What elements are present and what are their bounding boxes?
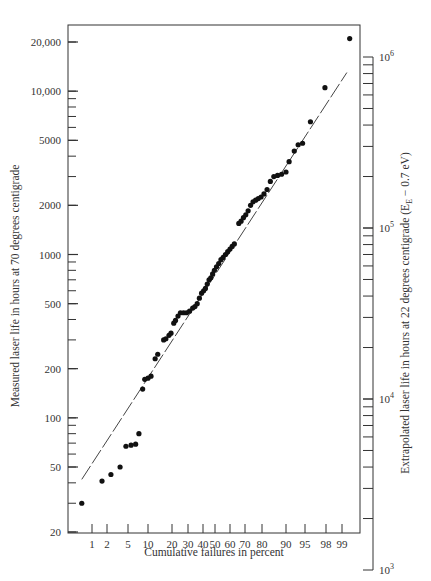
- y-tick-label: 1000: [39, 249, 62, 261]
- fit-line: [82, 73, 347, 480]
- x-tick-label: 2: [104, 538, 110, 550]
- y-tick-label: 500: [45, 298, 62, 310]
- y-tick-label: 100: [45, 412, 62, 424]
- y-axis-title: Measured laser life in hours at 70 degre…: [9, 165, 22, 408]
- x-tick-label: 99: [337, 538, 349, 550]
- data-point: [155, 352, 160, 357]
- data-point: [123, 444, 128, 449]
- y-tick-label: 20: [50, 526, 62, 538]
- data-point: [173, 318, 178, 323]
- y2-tick-label: 103: [379, 562, 394, 576]
- data-point: [133, 442, 138, 447]
- y2-tick-label: 106: [379, 49, 394, 63]
- data-point: [286, 159, 291, 164]
- data-point: [128, 443, 133, 448]
- data-point: [292, 148, 297, 153]
- left-y-axis: 205010020050010002000500010,00020,000: [31, 36, 78, 538]
- data-point: [153, 356, 158, 361]
- y-tick-label: 5000: [39, 134, 62, 146]
- data-point: [203, 286, 208, 291]
- data-point: [195, 301, 200, 306]
- x-tick-label: 1: [89, 538, 95, 550]
- data-point: [136, 431, 141, 436]
- regression-line: [82, 73, 347, 480]
- data-point: [347, 36, 352, 41]
- data-point: [99, 478, 104, 483]
- y-tick-label: 10,000: [31, 85, 62, 97]
- data-point: [140, 386, 145, 391]
- plot-border: [68, 25, 360, 533]
- y-tick-label: 2000: [39, 199, 62, 211]
- data-point: [322, 85, 327, 90]
- y2-axis-title: Extrapolated laser life in hours at 22 d…: [399, 152, 414, 474]
- data-point: [197, 296, 202, 301]
- data-point: [79, 501, 84, 506]
- right-y-axis: 103104105106: [363, 49, 394, 576]
- y-tick-label: 20,000: [31, 36, 62, 48]
- data-point: [300, 141, 305, 146]
- x-axis-title: Cumulative failures in percent: [144, 546, 284, 559]
- data-point: [168, 331, 173, 336]
- x-tick-label: 98: [321, 538, 333, 550]
- data-points: [79, 36, 352, 506]
- data-point: [268, 179, 273, 184]
- data-point: [264, 187, 269, 192]
- y-tick-label: 200: [45, 363, 62, 375]
- y-tick-label: 50: [50, 461, 62, 473]
- data-point: [232, 241, 237, 246]
- data-point: [246, 208, 251, 213]
- data-point: [279, 172, 284, 177]
- x-tick-label: 95: [300, 538, 312, 550]
- data-point: [117, 464, 122, 469]
- probability-plot: 205010020050010002000500010,00020,000 10…: [0, 0, 431, 581]
- data-point: [283, 169, 288, 174]
- data-point: [148, 374, 153, 379]
- y2-tick-label: 104: [379, 391, 394, 405]
- x-tick-label: 5: [125, 538, 131, 550]
- plot-frame: [68, 25, 360, 533]
- y2-tick-label: 105: [379, 220, 394, 234]
- data-point: [308, 119, 313, 124]
- data-point: [108, 472, 113, 477]
- data-point: [261, 191, 266, 196]
